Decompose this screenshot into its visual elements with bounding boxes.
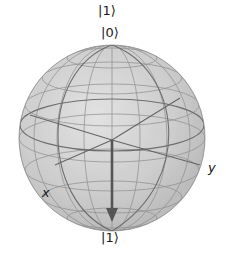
north-pole-label: |0⟩ (101, 26, 119, 39)
y-axis-label: y (208, 161, 216, 174)
south-pole-label: |1⟩ (101, 231, 119, 244)
title-label: |1⟩ (98, 4, 116, 17)
x-axis-label: x (42, 186, 50, 199)
